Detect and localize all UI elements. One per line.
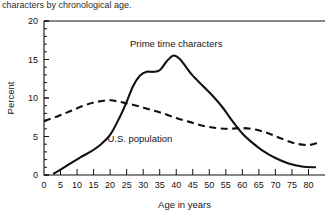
x-axis-tick-labels: 05101520253035404550556065707580	[41, 180, 313, 190]
chart-series-curves	[44, 56, 318, 174]
x-tick-label: 0	[41, 180, 46, 190]
chart-figure: 05101520 0510152025303540455055606570758…	[0, 10, 334, 213]
y-tick-label: 15	[28, 55, 38, 65]
x-tick-label: 15	[89, 180, 99, 190]
x-tick-label: 60	[237, 180, 247, 190]
x-tick-label: 35	[155, 180, 165, 190]
x-axis-title: Age in years	[158, 199, 211, 210]
y-axis-title: Percent	[5, 81, 16, 114]
series-label-us-population: U.S. population	[107, 133, 172, 144]
y-tick-label: 10	[28, 93, 38, 103]
series-label-prime-time: Prime time characters	[130, 38, 223, 49]
y-tick-label: 20	[28, 16, 38, 26]
x-tick-label: 45	[188, 180, 198, 190]
x-tick-label: 65	[254, 180, 264, 190]
x-tick-label: 70	[270, 180, 280, 190]
x-tick-label: 10	[72, 180, 82, 190]
series-line-prime-time-characters	[54, 56, 315, 174]
x-tick-label: 75	[287, 180, 297, 190]
x-tick-label: 80	[303, 180, 313, 190]
line-chart: 05101520 0510152025303540455055606570758…	[0, 10, 334, 213]
chart-series-annotations: Prime time charactersU.S. population	[107, 38, 222, 144]
x-tick-label: 30	[138, 180, 148, 190]
y-tick-label: 0	[33, 170, 38, 180]
x-tick-label: 50	[204, 180, 214, 190]
x-tick-label: 25	[122, 180, 132, 190]
y-axis-tick-labels: 05101520	[28, 16, 38, 180]
series-line-u-s-population	[44, 100, 318, 145]
x-tick-label: 5	[58, 180, 63, 190]
x-tick-label: 55	[221, 180, 231, 190]
y-tick-label: 5	[33, 132, 38, 142]
x-tick-label: 20	[105, 180, 115, 190]
x-tick-label: 40	[171, 180, 181, 190]
